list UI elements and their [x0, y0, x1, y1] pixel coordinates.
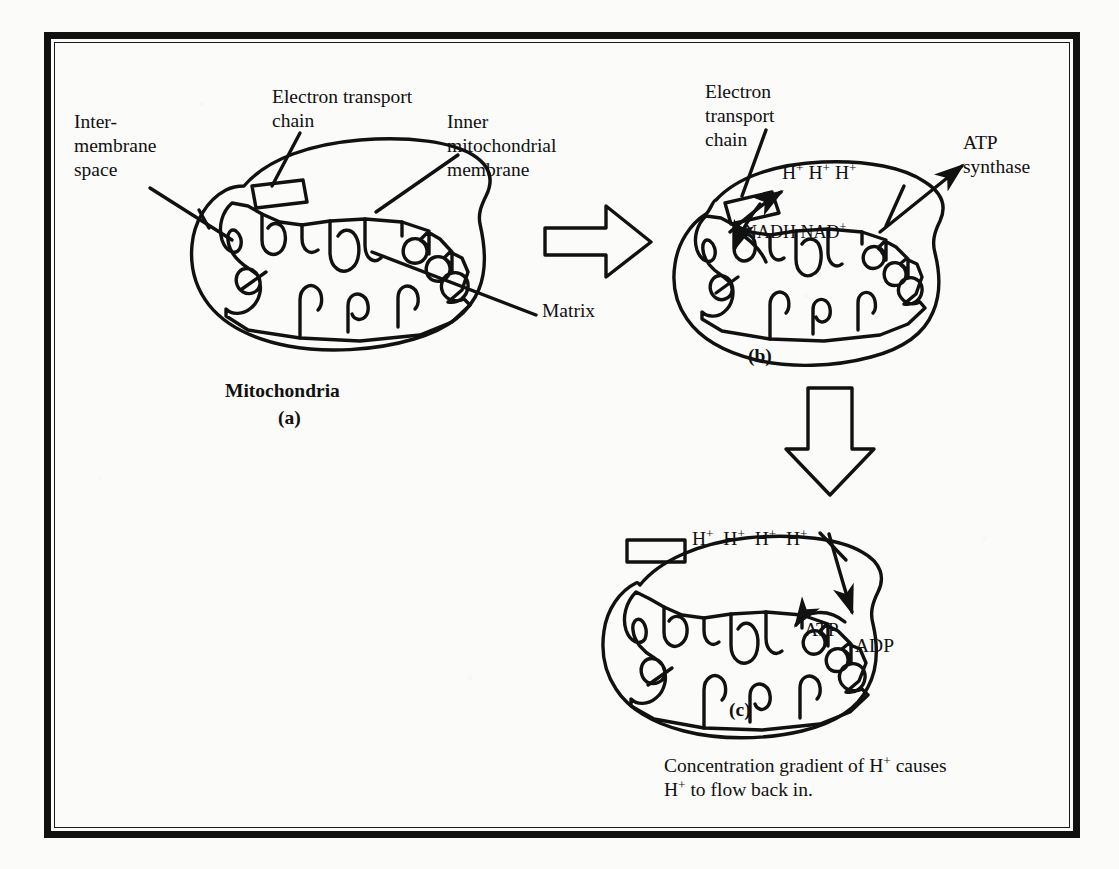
caption-panel-b-letter: (b) [748, 344, 772, 368]
label-matrix: Matrix [542, 299, 595, 323]
caption-concentration-gradient: Concentration gradient of H+ causesH+ to… [664, 754, 947, 802]
leader-inner-membrane-a [376, 155, 458, 212]
mito-a-crista-8 [398, 286, 418, 327]
mito-a-crista-2 [302, 225, 318, 252]
mito-c-crista-3 [731, 614, 758, 663]
mito-c-crista-2 [704, 618, 719, 644]
label-nadh-nad-b: NADH NAD+ [744, 221, 846, 244]
label-atp-c: ATP [804, 618, 839, 642]
label-inner-mitochondrial-membrane: Innermitochondrialmembrane [447, 110, 556, 182]
block-arrow-b-to-c [786, 388, 874, 495]
caption-panel-a-letter: (a) [278, 406, 301, 430]
caption-panel-c-letter: (c) [729, 698, 751, 722]
mito-b-crista-7 [813, 299, 830, 334]
mito-c-crista-8 [800, 676, 820, 718]
block-arrow-a-to-b [545, 206, 651, 277]
label-electron-transport-chain-b: Electrontransportchain [705, 80, 774, 152]
caption-mitochondria-title: Mitochondria [225, 379, 340, 403]
mito-a-crista-9 [242, 272, 266, 289]
label-electron-transport-chain-a: Electron transportchain [272, 85, 412, 133]
label-adp-c: ADP [855, 634, 894, 658]
mito-b-crista-6 [770, 292, 789, 339]
diagram-vector-layer [0, 0, 1119, 869]
leader-atp-synthase-b [880, 166, 962, 232]
mito-a-crista-6 [300, 286, 322, 338]
mito-c-crista-4 [766, 612, 782, 653]
mito-b-crista-8 [858, 292, 875, 330]
figure-page: Inter-membranespace Electron transportch… [0, 0, 1119, 869]
mito-c-crista-7 [750, 684, 770, 722]
label-intermembrane-space: Inter-membranespace [74, 110, 156, 182]
mito-c-crista-6 [704, 676, 726, 728]
label-atp-synthase: ATPsynthase [963, 131, 1030, 179]
mito-a-crista-3 [330, 221, 359, 271]
label-protons-c: H+ H+ H+ H+ [692, 527, 808, 551]
mito-a-crista-7 [348, 294, 368, 332]
etc-box-a [252, 180, 307, 208]
label-protons-b: H+ H+ H+ [782, 161, 856, 185]
